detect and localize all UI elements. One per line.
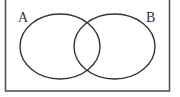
set-b-circle	[74, 14, 155, 79]
set-a-circle	[20, 14, 100, 79]
set-a-label: A	[18, 10, 29, 25]
universal-set-frame	[6, 0, 170, 91]
set-b-label: B	[146, 10, 155, 25]
venn-diagram: A B	[0, 0, 180, 97]
